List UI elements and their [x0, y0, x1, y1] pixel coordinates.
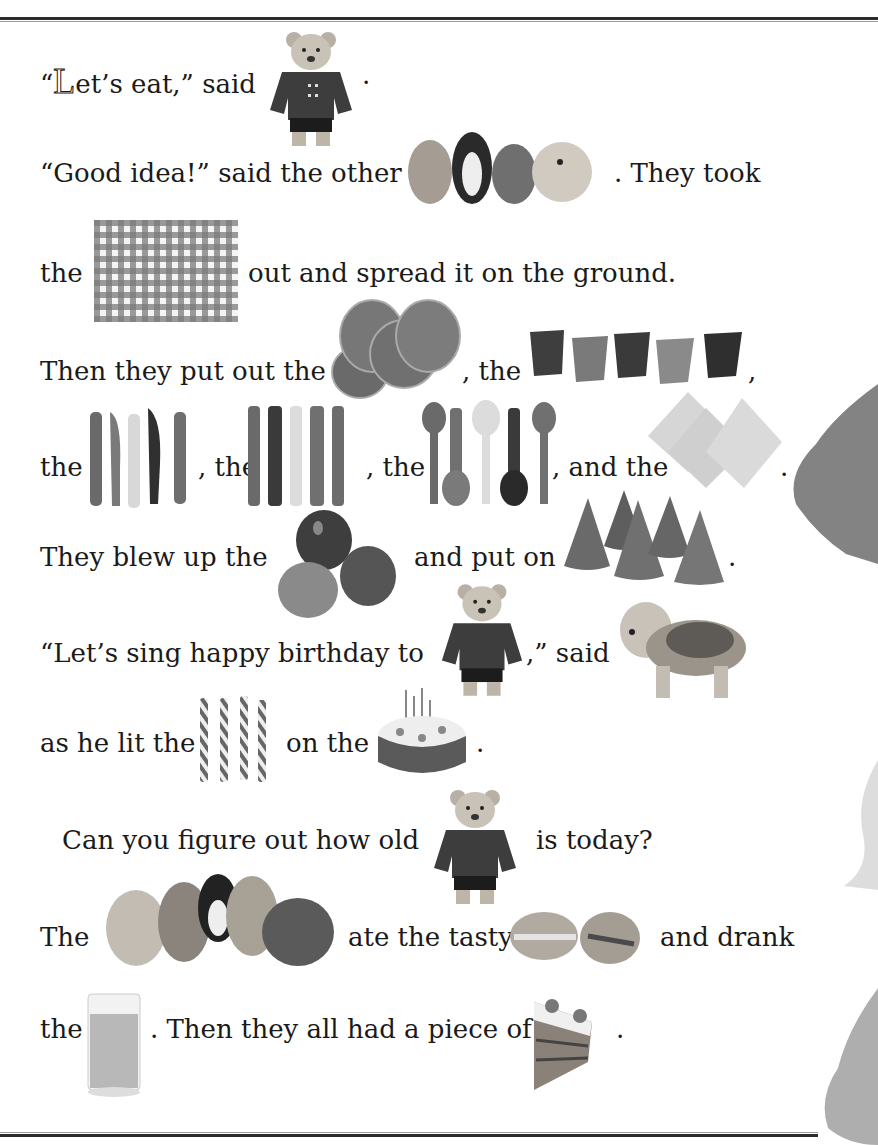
- comma: ,: [748, 356, 756, 386]
- dog-fur-edge-decoration: [776, 384, 878, 564]
- toy-friends-picture: [402, 122, 610, 206]
- paper-cups-picture: [528, 330, 744, 384]
- birthday-cake-picture: [376, 688, 472, 780]
- line-10-text: The: [40, 922, 89, 952]
- line-10-mid: ate the tasty: [348, 922, 513, 952]
- dog-picture: [610, 596, 754, 702]
- period: .: [362, 60, 370, 90]
- line-8-text: as he lit the: [40, 728, 195, 758]
- glass-of-juice-picture: [86, 992, 142, 1098]
- sandwiches-picture: [508, 910, 644, 966]
- drop-cap-letter: L: [53, 61, 75, 101]
- paper-plates-picture: [330, 296, 462, 400]
- line-5-mid2: , the: [366, 452, 425, 482]
- slice-of-cake-picture: [532, 992, 594, 1092]
- period: .: [616, 1014, 624, 1044]
- line-7-text: “Let’s sing happy birthday to: [40, 638, 424, 668]
- line-8-mid: on the: [286, 728, 369, 758]
- teddy-bear-picture: [428, 786, 522, 906]
- teddy-bear-picture: [264, 28, 358, 148]
- line-6-mid: and put on: [414, 542, 556, 572]
- line-2-after: . They took: [614, 158, 760, 188]
- line-11-mid: . Then they all had a piece of: [150, 1014, 532, 1044]
- napkins-picture: [648, 392, 786, 494]
- line-3-after: out and spread it on the ground.: [248, 258, 676, 288]
- line-9-text: Can you figure out how old: [62, 825, 419, 855]
- line-4-text: Then they put out the: [40, 356, 326, 386]
- open-quote: “: [40, 69, 53, 99]
- balloons-picture: [274, 510, 398, 618]
- dog-edge-decoration-mid: [824, 760, 878, 890]
- line-4-mid: , the: [462, 356, 521, 386]
- dog-paw-edge-decoration: [808, 988, 878, 1145]
- bottom-border-rule-inner: [0, 1132, 818, 1133]
- party-hats-picture: [560, 490, 728, 586]
- line-11-text: the: [40, 1014, 83, 1044]
- period: .: [728, 542, 736, 572]
- line-3-text: the: [40, 258, 83, 288]
- plastic-forks-picture: [246, 404, 362, 508]
- teddy-bear-picture: [436, 580, 528, 698]
- line-6-text: They blew up the: [40, 542, 268, 572]
- top-border-rule-inner: [0, 21, 878, 22]
- candles-picture: [196, 694, 272, 784]
- bottom-border-rule: [0, 1134, 818, 1137]
- line-9-after: is today?: [536, 825, 653, 855]
- line-1-text: “Let’s eat,” said: [40, 60, 256, 102]
- checkered-tablecloth-picture: [94, 220, 238, 322]
- toy-friends-group-picture: [98, 868, 336, 970]
- line-2-text: “Good idea!” said the other: [40, 158, 402, 188]
- period: .: [476, 728, 484, 758]
- top-border-rule: [0, 17, 878, 20]
- plastic-spoons-picture: [420, 400, 562, 508]
- line-5-text: the: [40, 452, 83, 482]
- plastic-knives-picture: [88, 408, 196, 510]
- line-7-mid: ,” said: [526, 638, 610, 668]
- line-10-after: and drank: [660, 922, 794, 952]
